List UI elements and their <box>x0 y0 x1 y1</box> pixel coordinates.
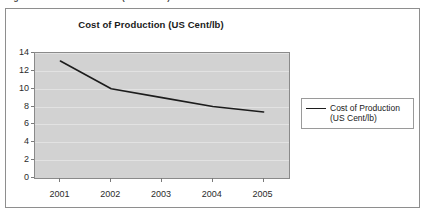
x-tick-mark-2004 <box>212 178 213 182</box>
y-tick-label-6: 6 <box>9 119 29 128</box>
x-tick-mark-2005 <box>263 178 264 182</box>
y-tick-label-2: 2 <box>9 155 29 164</box>
y-tick-mark-10 <box>31 88 34 89</box>
chart-legend: Cost of Production (US Cent/lb) <box>301 98 414 129</box>
legend-item-label-line2: (US Cent/lb) <box>330 113 377 123</box>
x-tick-label-2004: 2004 <box>192 190 232 199</box>
y-tick-label-8: 8 <box>9 102 29 111</box>
figure-caption-text: Figure 1: Cost of Production (US Cent/lb… <box>6 0 170 2</box>
y-tick-mark-12 <box>31 70 34 71</box>
legend-item-cost-of-production: Cost of Production (US Cent/lb) <box>306 103 409 123</box>
chart-title: Cost of Production (US Cent/lb) <box>26 19 276 30</box>
plot-area <box>34 52 290 179</box>
figure-frame: Cost of Production (US Cent/lb) 14 12 10… <box>5 8 420 208</box>
series-line-cost-of-production <box>35 53 289 178</box>
y-tick-mark-8 <box>31 106 34 107</box>
y-tick-label-10: 10 <box>9 84 29 93</box>
y-tick-mark-14 <box>31 52 34 53</box>
y-tick-label-4: 4 <box>9 137 29 146</box>
legend-item-label: Cost of Production (US Cent/lb) <box>330 103 400 123</box>
x-tick-label-2003: 2003 <box>141 190 181 199</box>
x-tick-mark-2001 <box>59 178 60 182</box>
x-tick-mark-2002 <box>110 178 111 182</box>
x-tick-mark-2003 <box>161 178 162 182</box>
legend-item-label-line1: Cost of Production <box>330 103 400 113</box>
y-tick-mark-2 <box>31 159 34 160</box>
y-tick-label-14: 14 <box>9 48 29 57</box>
x-tick-label-2001: 2001 <box>39 190 79 199</box>
y-tick-label-0: 0 <box>9 173 29 182</box>
y-tick-mark-4 <box>31 141 34 142</box>
x-tick-label-2002: 2002 <box>90 190 130 199</box>
y-tick-mark-0 <box>31 177 34 178</box>
x-tick-label-2005: 2005 <box>243 190 283 199</box>
y-tick-label-12: 12 <box>9 66 29 75</box>
figure-caption-strip: Figure 1: Cost of Production (US Cent/lb… <box>0 0 426 6</box>
legend-line-swatch-icon <box>306 104 326 113</box>
y-tick-mark-6 <box>31 123 34 124</box>
